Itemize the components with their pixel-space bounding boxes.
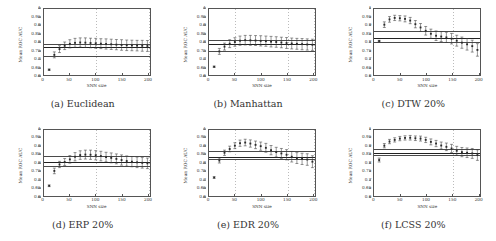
x-axis-label: SNN size <box>373 83 481 88</box>
x-tick-mark <box>426 194 427 197</box>
y-tick-mark <box>38 25 41 26</box>
x-tick-label: 100 <box>257 198 265 202</box>
y-tick-mark <box>203 196 206 197</box>
y-tick-mark <box>369 179 372 180</box>
x-tick-mark <box>287 194 288 197</box>
x-tick-label: 200 <box>309 198 317 202</box>
y-tick-mark <box>369 67 372 68</box>
y-tick-mark <box>369 171 372 172</box>
subplot-caption: (b) Manhattan <box>213 98 282 109</box>
x-tick-mark <box>452 194 453 197</box>
x-tick-label: 0 <box>207 198 210 202</box>
x-tick-mark <box>261 73 262 76</box>
subplot-panel: Mean ROC AUC10.950.90.850.80.750.70.650.… <box>331 0 496 121</box>
y-tick-mark <box>38 42 41 43</box>
subplot-caption: (f) LCSS 20% <box>381 219 446 230</box>
y-axis-ticks: 10.950.90.850.80.750.70.650.6 <box>8 129 41 197</box>
x-tick-mark <box>95 194 96 197</box>
x-tick-mark <box>122 73 123 76</box>
y-tick-mark <box>369 50 372 51</box>
y-tick-mark <box>203 16 206 17</box>
x-tick-mark <box>148 73 149 76</box>
x-tick-label: 200 <box>475 198 483 202</box>
y-axis-ticks: 10.950.90.850.80.750.70.650.6 <box>338 8 371 76</box>
y-tick-mark <box>38 67 41 68</box>
x-tick-label: 100 <box>91 198 99 202</box>
x-tick-label: 200 <box>144 198 152 202</box>
error-bar-series <box>209 130 315 196</box>
x-tick-mark <box>69 194 70 197</box>
error-bar-series <box>44 9 150 75</box>
x-tick-mark <box>208 194 209 197</box>
y-tick-mark <box>369 59 372 60</box>
y-axis-ticks: 10.950.90.850.80.750.70.650.6 <box>173 8 206 76</box>
y-tick-mark <box>203 25 206 26</box>
x-tick-mark <box>234 73 235 76</box>
error-bar-series <box>374 9 480 75</box>
y-tick-mark <box>38 33 41 34</box>
y-tick-mark <box>203 154 206 155</box>
x-tick-mark <box>313 73 314 76</box>
x-tick-mark <box>313 194 314 197</box>
y-tick-mark <box>38 128 41 129</box>
x-tick-label: 100 <box>422 198 430 202</box>
x-tick-mark <box>234 194 235 197</box>
subplot-panel: Mean ROC AUC10.950.90.850.80.750.70.650.… <box>0 0 165 121</box>
y-tick-mark <box>203 33 206 34</box>
subplot-caption: (d) ERP 20% <box>52 219 113 230</box>
y-tick-mark <box>203 179 206 180</box>
y-tick-mark <box>369 76 372 77</box>
y-tick-mark <box>369 196 372 197</box>
x-tick-label: 0 <box>41 198 44 202</box>
y-tick-mark <box>369 8 372 9</box>
y-tick-mark <box>369 16 372 17</box>
y-tick-mark <box>369 33 372 34</box>
error-bar-series <box>374 130 480 196</box>
y-tick-mark <box>38 188 41 189</box>
y-tick-mark <box>38 171 41 172</box>
y-tick-mark <box>38 154 41 155</box>
subplot-panel: Mean ROC AUC10.950.90.850.80.750.70.650.… <box>165 121 330 241</box>
y-tick-mark <box>369 188 372 189</box>
x-tick-label: 0 <box>372 198 375 202</box>
x-tick-label: 50 <box>397 198 402 202</box>
x-axis-label: SNN size <box>43 83 151 88</box>
y-tick-mark <box>38 16 41 17</box>
y-tick-mark <box>38 145 41 146</box>
x-tick-mark <box>148 194 149 197</box>
y-tick-mark <box>203 59 206 60</box>
y-tick-mark <box>38 59 41 60</box>
x-axis-label: SNN size <box>208 204 316 209</box>
axes-frame <box>208 129 316 197</box>
axes-frame <box>43 8 151 76</box>
x-tick-label: 150 <box>283 198 291 202</box>
x-tick-label: 200 <box>475 78 483 82</box>
subplot-caption: (c) DTW 20% <box>382 98 446 109</box>
y-tick-mark <box>203 42 206 43</box>
error-bar-series <box>44 130 150 196</box>
x-tick-mark <box>43 73 44 76</box>
x-tick-label: 150 <box>283 78 291 82</box>
x-axis-label: SNN size <box>43 204 151 209</box>
x-tick-label: 200 <box>309 78 317 82</box>
x-tick-label: 0 <box>372 78 375 82</box>
x-tick-label: 200 <box>144 78 152 82</box>
x-tick-mark <box>400 73 401 76</box>
y-tick-mark <box>38 50 41 51</box>
figure-grid: Mean ROC AUC10.950.90.850.80.750.70.650.… <box>0 0 496 241</box>
y-tick-mark <box>369 128 372 129</box>
y-tick-mark <box>203 162 206 163</box>
y-tick-mark <box>203 188 206 189</box>
x-tick-mark <box>479 194 480 197</box>
x-tick-label: 50 <box>397 78 402 82</box>
x-tick-mark <box>69 73 70 76</box>
subplot-panel: Mean ROC AUC10.950.90.850.80.750.70.650.… <box>165 0 330 121</box>
axes-frame <box>373 129 481 197</box>
y-tick-mark <box>38 179 41 180</box>
axes-frame <box>373 8 481 76</box>
x-tick-mark <box>95 73 96 76</box>
subplot-panel: Mean ROC AUC10.950.90.850.80.750.70.650.… <box>0 121 165 241</box>
x-tick-label: 100 <box>257 78 265 82</box>
plot-area: Mean ROC AUC10.950.90.850.80.750.70.650.… <box>338 121 488 217</box>
y-axis-ticks: 10.950.90.850.80.750.70.650.6 <box>173 129 206 197</box>
